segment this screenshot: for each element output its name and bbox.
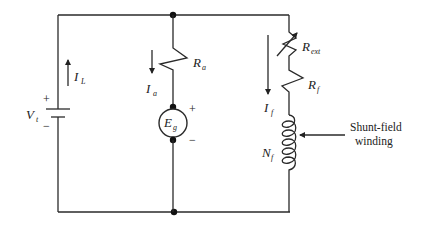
source-label-sub: t <box>36 115 39 124</box>
source-minus-sign: − <box>43 119 50 133</box>
external-resistor-label-sub: ext <box>311 47 321 56</box>
source-label: V <box>26 107 36 122</box>
armature-current-label: I <box>145 81 151 96</box>
field-current-label-sub: f <box>271 108 275 117</box>
armature-resistor-label-sub: a <box>202 63 206 72</box>
armature-resistor-label: R <box>192 55 201 70</box>
bottom-junction-node <box>171 209 177 215</box>
generator-label: E <box>163 115 172 130</box>
generator-label-sub: g <box>173 123 177 132</box>
field-branch: R ext R f I f N f Shunt-field winding <box>261 15 402 212</box>
annotation-line1: Shunt-field <box>350 121 402 133</box>
field-current-label: I <box>263 100 269 115</box>
external-resistor-label: R <box>301 39 310 54</box>
generator-plus-sign: + <box>189 102 196 116</box>
field-resistors-icon <box>282 15 303 115</box>
field-resistor-label: R <box>307 77 316 92</box>
line-current-label-sub: L <box>80 77 86 86</box>
field-resistor-label-sub: f <box>317 85 321 94</box>
armature-branch: R a E g + − I a <box>145 12 206 215</box>
armature-resistor-icon <box>160 15 187 105</box>
circuit-diagram: + − V t I L R a E g + − I a R ext R f <box>0 0 425 229</box>
line-current-label: I <box>73 69 79 84</box>
field-coil-icon <box>282 115 296 212</box>
source-plus-sign: + <box>43 92 50 106</box>
generator-minus-sign: − <box>189 133 196 147</box>
voltage-source: + − V t <box>26 92 70 133</box>
line-current-indicator: I L <box>68 60 86 86</box>
annotation-line2: winding <box>355 135 393 148</box>
field-winding-label-sub: f <box>271 153 275 162</box>
armature-current-label-sub: a <box>153 89 157 98</box>
